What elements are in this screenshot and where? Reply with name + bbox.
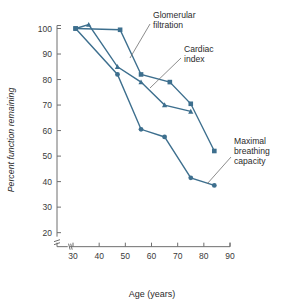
x-axis-tick-labels: 30405060708090 [68, 251, 235, 261]
x-axis-title: Age (years) [129, 289, 176, 299]
data-point-marker [118, 27, 123, 32]
series-annotation-cardiac-index: Cardiacindex [150, 44, 214, 88]
annotation-group: GlomerularfiltrationCardiacindexMaximalb… [130, 10, 270, 184]
annotation-leader-line [207, 157, 231, 184]
data-point-marker [73, 26, 78, 31]
y-tick-label: 20 [43, 228, 53, 238]
y-tick-label: 60 [43, 126, 53, 136]
data-point-marker [115, 72, 120, 77]
annotation-label: Maximalbreathingcapacity [234, 136, 270, 166]
data-point-marker [188, 175, 193, 180]
x-axis-ticks [73, 243, 230, 247]
chart-figure: 2030405060708090100 30405060708090 Glome… [0, 0, 288, 307]
x-tick-label: 70 [173, 251, 183, 261]
y-axis-title: Percent function remaining [6, 88, 16, 193]
data-point-marker [168, 80, 173, 85]
chart-svg: 2030405060708090100 30405060708090 Glome… [0, 0, 288, 307]
y-axis-ticks [57, 29, 61, 233]
annotation-leader-line [150, 58, 181, 88]
y-tick-label: 80 [43, 75, 53, 85]
y-tick-label: 100 [38, 24, 52, 34]
data-point-marker [139, 127, 144, 132]
data-point-marker [139, 72, 144, 77]
x-tick-label: 30 [68, 251, 78, 261]
data-point-marker [188, 101, 193, 106]
annotation-leader-line [130, 24, 150, 58]
x-tick-label: 60 [147, 251, 157, 261]
y-axis-break-mark [54, 240, 60, 247]
y-tick-label: 90 [43, 49, 53, 59]
x-tick-label: 80 [199, 251, 209, 261]
data-point-marker [212, 183, 217, 188]
data-point-marker [162, 135, 167, 140]
annotation-label: Cardiacindex [184, 44, 214, 64]
y-tick-label: 30 [43, 202, 53, 212]
y-tick-label: 40 [43, 177, 53, 187]
x-axis-line [69, 243, 230, 247]
annotation-label: Glomerularfiltration [153, 10, 196, 30]
y-axis-tick-labels: 2030405060708090100 [38, 24, 52, 238]
x-tick-label: 50 [121, 251, 131, 261]
x-tick-label: 90 [225, 251, 235, 261]
series-line [76, 25, 191, 112]
y-tick-label: 70 [43, 100, 53, 110]
series-annotation-maximal-breathing-capacity: Maximalbreathingcapacity [207, 136, 270, 184]
y-tick-label: 50 [43, 151, 53, 161]
data-point-marker [212, 149, 217, 154]
x-tick-label: 40 [94, 251, 104, 261]
data-point-marker [86, 22, 91, 27]
data-series [76, 22, 194, 114]
